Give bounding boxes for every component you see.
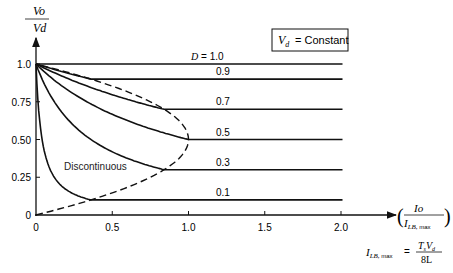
ilb-max-formula: ILB, max = TsVd 8L [365, 240, 442, 265]
svg-text:(: ( [397, 205, 404, 228]
y-tick-label: 0 [25, 210, 31, 221]
boundary-dashed-curve [36, 64, 189, 215]
y-tick-label: 0.50 [12, 135, 32, 146]
curve-d-0-7 [36, 64, 343, 109]
duty-cycle-label: 0.3 [216, 157, 230, 168]
constant-box-text: = Constant [295, 34, 349, 46]
curve-d-0-5 [36, 64, 343, 140]
duty-cycle-label: 0.7 [216, 96, 230, 107]
duty-cycle-label: 0.1 [216, 187, 230, 198]
svg-text:ILB, max: ILB, max [365, 246, 393, 260]
y-axis-label: Vo Vd [25, 4, 49, 35]
x-axis-label-numerator: Io [413, 202, 424, 214]
y-axis-label-denominator: Vd [33, 21, 47, 35]
duty-cycle-label: 0.9 [216, 66, 230, 77]
chart: Vo Vd 00.250.500.751.0 00.51.01.52.0 D =… [0, 0, 453, 273]
x-tick-label: 1.5 [258, 222, 272, 233]
duty-cycle-label: 0.5 [216, 127, 230, 138]
x-ticks: 00.51.01.52.0 [33, 211, 348, 233]
svg-text:ILB, max: ILB, max [403, 217, 431, 231]
svg-text:TsVd: TsVd [418, 240, 436, 252]
duty-cycle-label: D = 1.0 [190, 51, 224, 62]
vd-constant-box: Vd = Constant [272, 29, 349, 51]
y-axis-label-numerator: Vo [33, 4, 45, 18]
svg-text:): ) [444, 205, 451, 228]
x-tick-label: 0 [33, 222, 39, 233]
region-label-discontinuous: Discontinuous [64, 161, 127, 172]
y-tick-label: 0.25 [12, 172, 32, 183]
x-tick-label: 0.5 [105, 222, 119, 233]
y-tick-label: 1.0 [17, 59, 31, 70]
x-tick-label: 2.0 [334, 222, 348, 233]
curve-d-0-9 [36, 64, 343, 79]
duty-cycle-curves [36, 64, 343, 200]
y-tick-label: 0.75 [12, 97, 32, 108]
x-tick-label: 1.0 [182, 222, 196, 233]
duty-cycle-labels: D = 1.00.90.70.50.30.1 [190, 51, 230, 198]
formula-denominator: 8L [421, 254, 432, 265]
svg-text:=: = [404, 246, 410, 257]
x-axis-label: ( Io ILB, max ) [397, 202, 451, 231]
